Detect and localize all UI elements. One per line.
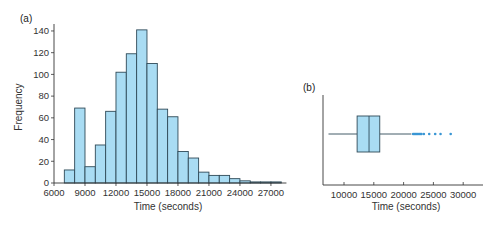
histogram-bar — [219, 175, 229, 183]
histogram-chart: (a) 600090001200015000180002100024000270… — [0, 0, 503, 229]
histogram-x-tick-label: 6000 — [43, 187, 64, 198]
histogram-x-tick-label: 18000 — [165, 187, 191, 198]
histogram-y-tick-label: 60 — [38, 112, 49, 123]
histogram-bar — [230, 179, 240, 183]
histogram-x-tick-label: 15000 — [134, 187, 160, 198]
histogram-bar — [157, 109, 167, 183]
histogram-x-tick-label: 21000 — [196, 187, 222, 198]
histogram-bar — [106, 111, 116, 183]
histogram-y-tick-label: 20 — [38, 156, 49, 167]
box-plot-axes: 1000015000200002500030000 — [323, 95, 483, 200]
histogram-bar — [199, 172, 209, 183]
panel-label-b: (b) — [303, 82, 315, 93]
histogram-bar — [188, 158, 198, 183]
box-plot-x-tick-label: 30000 — [450, 189, 476, 200]
box-plot-outlier — [449, 133, 452, 136]
box-plot-x-tick-label: 15000 — [361, 189, 387, 200]
histogram-bar — [178, 152, 188, 183]
histogram-y-tick-label: 40 — [38, 134, 49, 145]
box-plot-x-tick-label: 10000 — [331, 189, 357, 200]
box-plot-box — [357, 116, 380, 152]
histogram-x-tick-label: 27000 — [258, 187, 284, 198]
box-plot-outlier — [420, 133, 423, 136]
histogram-bar — [137, 30, 147, 183]
panel-label-a: (a) — [20, 13, 32, 24]
histogram-bar — [168, 117, 178, 183]
histogram-bar — [85, 167, 95, 183]
histogram-bar — [116, 72, 126, 183]
box-plot-x-tick-label: 25000 — [420, 189, 446, 200]
histogram-y-tick-label: 120 — [33, 47, 49, 58]
histogram-bar — [209, 175, 219, 183]
histogram-x-tick-label: 9000 — [74, 187, 95, 198]
histogram-bar — [147, 64, 157, 183]
histogram-bar — [64, 170, 74, 183]
histogram-bars — [64, 30, 281, 183]
histogram-y-tick-label: 140 — [33, 25, 49, 36]
histogram-x-tick-label: 12000 — [103, 187, 129, 198]
histogram-x-axis-title: Time (seconds) — [134, 201, 203, 212]
histogram-x-tick-label: 24000 — [227, 187, 253, 198]
box-plot-outlier — [423, 133, 426, 136]
box-plot-outlier — [439, 133, 442, 136]
histogram-bar — [126, 54, 136, 183]
box-plot-outlier — [428, 133, 431, 136]
histogram-y-tick-label: 80 — [38, 90, 49, 101]
box-plot-outlier — [434, 133, 437, 136]
histogram-bar — [75, 108, 85, 183]
box-plot — [329, 116, 452, 152]
box-plot-x-tick-label: 20000 — [390, 189, 416, 200]
histogram-bar — [95, 145, 105, 183]
box-plot-x-axis-title: Time (seconds) — [372, 201, 441, 212]
histogram-y-tick-label: 100 — [33, 69, 49, 80]
histogram-y-axis-title: Frequency — [13, 83, 24, 130]
histogram-y-tick-label: 0 — [44, 177, 49, 188]
